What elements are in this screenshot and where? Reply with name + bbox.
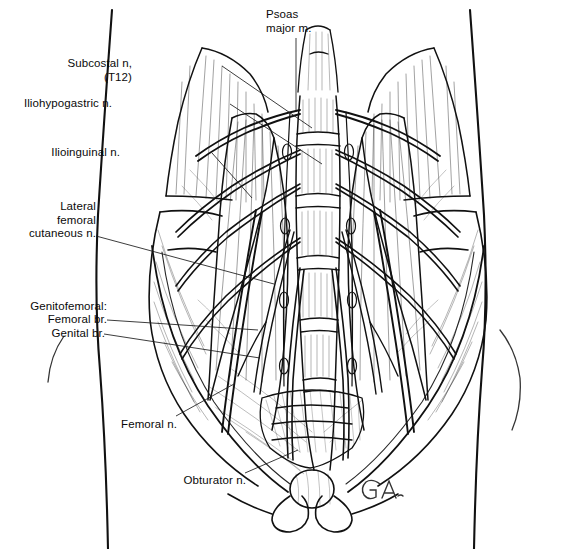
- nerve-femoral: [222, 210, 414, 434]
- label-genitofemoral-femoral-branch: Femoral br.: [0, 313, 107, 327]
- label-lateral-femoral-cutaneous-nerve: Lateral femoral cutaneous n.: [0, 200, 96, 241]
- nerve-obturator: [287, 268, 349, 460]
- psoas-major-left-fibers: [216, 120, 285, 382]
- label-ilioinguinal-nerve: Ilioinguinal n.: [0, 146, 120, 160]
- iliacus-right: [378, 211, 487, 486]
- psoas-major-right-fibers: [352, 120, 421, 382]
- label-femoral-nerve: Femoral n.: [0, 418, 177, 432]
- lateral-wall-texture: [182, 170, 454, 352]
- leader-femoral-br: [107, 320, 258, 330]
- vertebra-hatching: [302, 98, 333, 377]
- label-psoas-major-muscle: Psoas major m.: [266, 8, 312, 35]
- label-subcostal-nerve: Subcostal n, (T12): [15, 57, 132, 84]
- label-genitofemoral-nerve: Genitofemoral:: [0, 300, 107, 314]
- iliacus-left: [149, 211, 258, 486]
- label-genitofemoral-genital-branch: Genital br.: [0, 327, 105, 341]
- label-obturator-nerve: Obturator n.: [0, 474, 246, 488]
- pubic-hatching: [296, 471, 330, 506]
- pubic-symphysis: [228, 470, 398, 532]
- torso-outline: [96, 10, 485, 549]
- diaphragm-crura: [298, 26, 338, 92]
- pelvic-rim: [152, 246, 484, 492]
- pelvic-rim-inner: [162, 252, 474, 484]
- nerve-ilioinguinal: [176, 184, 460, 291]
- crura-hatching: [308, 32, 330, 90]
- label-iliohypogastric-nerve: Iliohypogastric n.: [0, 97, 112, 111]
